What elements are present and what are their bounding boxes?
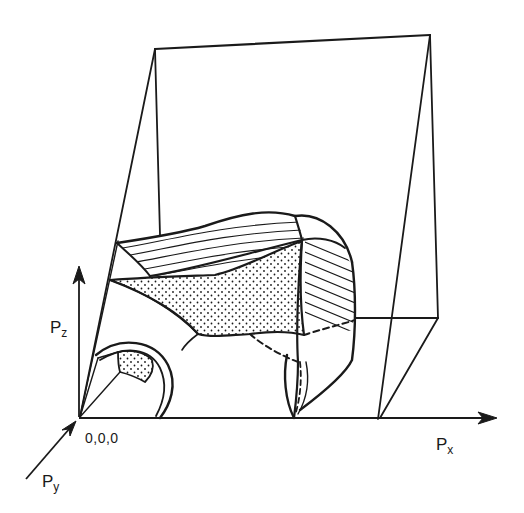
- surface-body: [80, 212, 360, 418]
- central-stippled-face: [110, 241, 304, 336]
- axis-labels: Pz Px Py 0,0,0: [42, 318, 453, 494]
- origin-label: 0,0,0: [85, 430, 119, 446]
- px-label: Px: [436, 435, 453, 457]
- pz-label: Pz: [50, 318, 67, 340]
- corner-stippled-face: [118, 351, 153, 382]
- momentum-space-diagram: Pz Px Py 0,0,0: [0, 0, 524, 513]
- py-label: Py: [42, 472, 59, 494]
